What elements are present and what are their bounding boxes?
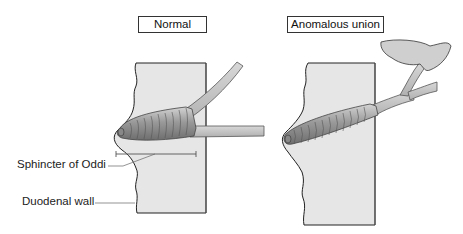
choledochal-sac-anomalous [381, 40, 451, 71]
normal-panel [95, 62, 264, 213]
papilla-opening-anomalous [285, 135, 291, 143]
sphincter-of-oddi-normal [117, 107, 196, 140]
label-sphincter-of-oddi: Sphincter of Oddi [17, 158, 106, 170]
papilla-opening-normal [118, 128, 124, 136]
label-duodenal-wall: Duodenal wall [22, 195, 94, 207]
duodenal-wall-anomalous [282, 63, 375, 225]
pancreatic-duct-normal [190, 126, 264, 137]
anomalous-panel [282, 40, 451, 225]
